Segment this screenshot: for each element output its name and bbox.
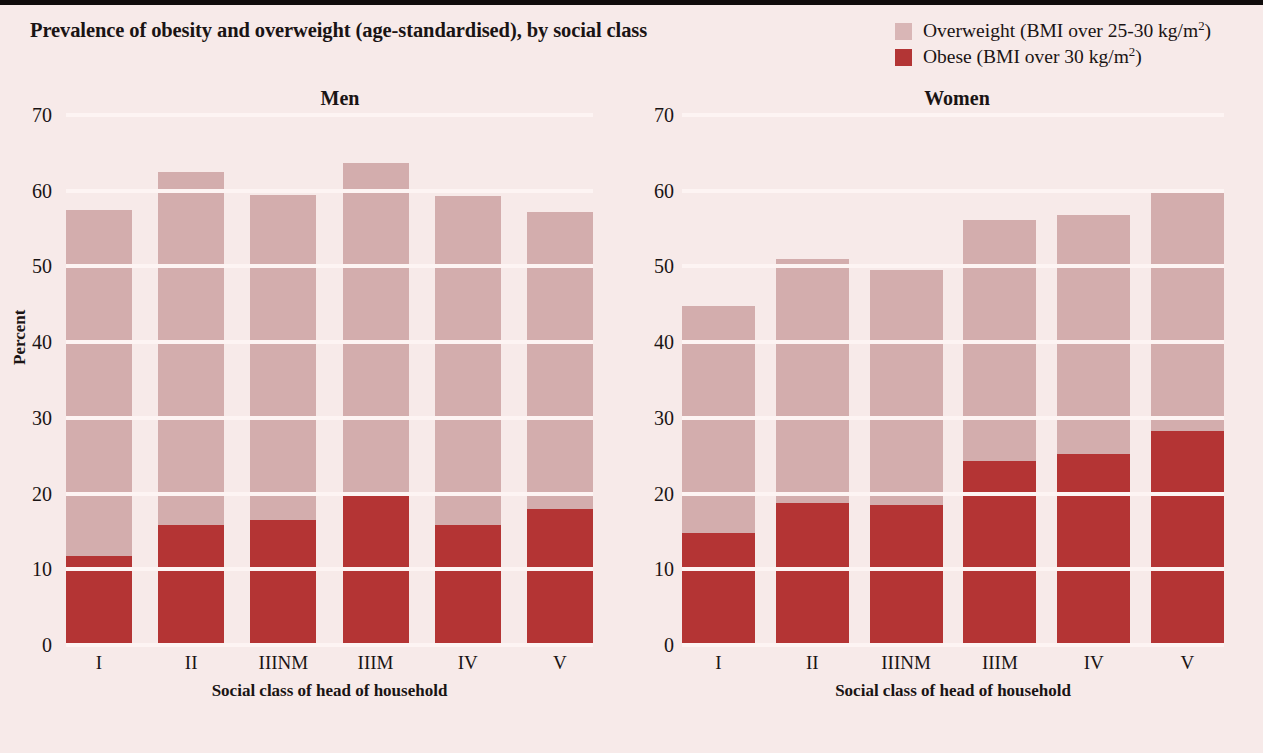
plot-area-men: Percent 010203040506070 IIIIIINMIIIMIVV … [10,115,630,645]
y-tick-label: 60 [654,181,674,201]
bar-segment-obese [66,556,132,645]
y-tick-label: 30 [654,408,674,428]
panel-title-women: Women [632,85,1252,115]
y-tick-label: 0 [42,635,52,655]
legend-label-overweight: Overweight (BMI over 25-30 kg/m2) [923,18,1211,44]
bar-segment-overweight [343,163,409,496]
bar-IV [435,196,501,645]
y-tick-label: 70 [32,105,52,125]
bar-segment-obese [776,503,849,645]
bar-segment-overweight [682,306,755,533]
x-tick-label-I: I [66,649,132,677]
y-tick-label: 0 [664,635,674,655]
legend-swatch-obese-icon [895,49,912,66]
legend-item-overweight: Overweight (BMI over 25-30 kg/m2) [895,18,1211,44]
bar-IIIM [963,220,1036,645]
x-axis-label-women: Social class of head of household [682,681,1224,701]
y-axis-ticks-women: 010203040506070 [632,115,674,645]
y-tick-label: 10 [654,559,674,579]
x-tick-label-V: V [527,649,593,677]
bar-group-women [682,115,1224,645]
x-tick-label-V: V [1151,649,1224,677]
bar-group-men [66,115,593,645]
bar-segment-overweight [527,212,593,510]
x-tick-label-I: I [682,649,755,677]
x-tick-label-II: II [776,649,849,677]
bar-IIIM [343,163,409,645]
x-axis-categories-women: IIIIIINMIIIMIVV [682,649,1224,677]
bar-segment-overweight [963,220,1036,461]
bar-IIINM [870,270,943,645]
bar-segment-overweight [870,270,943,505]
bar-IV [1057,215,1130,645]
bar-I [682,306,755,645]
y-tick-label: 70 [654,105,674,125]
bar-segment-obese [158,525,224,645]
bar-segment-obese [682,533,755,645]
bar-V [527,212,593,645]
y-tick-label: 40 [654,332,674,352]
bar-segment-overweight [66,210,132,557]
bar-segment-obese [250,520,316,645]
x-tick-label-IIIM: IIIM [963,649,1036,677]
bar-segment-overweight [1151,191,1224,431]
x-axis-label-men: Social class of head of household [66,681,593,701]
bar-V [1151,191,1224,645]
bar-segment-obese [1057,454,1130,645]
bar-segment-overweight [1057,215,1130,454]
x-tick-label-II: II [158,649,224,677]
top-rule [0,0,1263,5]
bar-segment-obese [870,505,943,645]
y-tick-label: 60 [32,181,52,201]
bar-segment-obese [1151,431,1224,645]
y-axis-ticks-men: 010203040506070 [10,115,52,645]
x-tick-label-IV: IV [1057,649,1130,677]
bar-II [776,259,849,645]
legend-label-obese: Obese (BMI over 30 kg/m2) [923,44,1142,70]
x-tick-label-IIINM: IIINM [870,649,943,677]
bar-segment-obese [963,461,1036,645]
legend-swatch-overweight-icon [895,23,912,40]
legend-item-obese: Obese (BMI over 30 kg/m2) [895,44,1211,70]
bar-segment-obese [435,525,501,645]
y-tick-label: 10 [32,559,52,579]
bar-II [158,172,224,645]
plot-area-women: 010203040506070 IIIIIINMIIIMIVV Social c… [632,115,1252,645]
bar-I [66,210,132,645]
y-tick-label: 50 [32,256,52,276]
bar-segment-overweight [776,259,849,503]
bars-plot-men: IIIIIINMIIIMIVV Social class of head of … [66,115,593,645]
chart-panel-women: Women 010203040506070 IIIIIINMIIIMIVV So… [632,85,1252,645]
x-tick-label-IIINM: IIINM [250,649,316,677]
bar-segment-overweight [435,196,501,525]
y-tick-label: 40 [32,332,52,352]
panel-title-men: Men [10,85,630,115]
y-tick-label: 50 [654,256,674,276]
x-tick-label-IV: IV [435,649,501,677]
chart-legend: Overweight (BMI over 25-30 kg/m2) Obese … [895,18,1211,70]
bars-plot-women: IIIIIINMIIIMIVV Social class of head of … [682,115,1224,645]
figure-title: Prevalence of obesity and overweight (ag… [30,19,647,42]
bar-segment-overweight [158,172,224,526]
y-tick-label: 20 [654,484,674,504]
bar-segment-overweight [250,195,316,521]
x-axis-categories-men: IIIIIINMIIIMIVV [66,649,593,677]
x-tick-label-IIIM: IIIM [343,649,409,677]
chart-panel-men: Men Percent 010203040506070 IIIIIINMIIIM… [10,85,630,645]
bar-segment-obese [343,496,409,645]
y-tick-label: 30 [32,408,52,428]
bar-IIINM [250,195,316,646]
y-tick-label: 20 [32,484,52,504]
bar-segment-obese [527,509,593,645]
